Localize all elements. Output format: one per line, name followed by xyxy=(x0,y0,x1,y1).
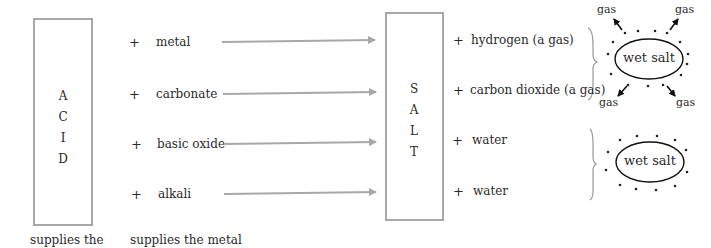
salt-letters: S A L T xyxy=(404,79,424,163)
product-hydrogen: hydrogen (a gas) xyxy=(471,33,574,47)
gas-label: gas xyxy=(599,96,618,109)
gas-label: gas xyxy=(675,3,694,16)
wet-salt-label: wet salt xyxy=(615,153,685,168)
gas-label: gas xyxy=(676,96,695,109)
wet-salt-label: wet salt xyxy=(614,50,684,65)
reaction-arrows xyxy=(222,40,376,194)
reactant-caption: supplies the metal xyxy=(130,233,242,247)
plus-sign: + xyxy=(453,184,464,199)
salt-letter: T xyxy=(404,142,424,163)
plus-sign: + xyxy=(453,83,464,98)
acid-caption: supplies the xyxy=(30,233,104,247)
plus-sign: + xyxy=(452,133,463,148)
salt-letter: S xyxy=(404,79,424,100)
product-water: water xyxy=(473,184,508,198)
salt-letter: L xyxy=(404,121,424,142)
product-carbon-dioxide: carbon dioxide (a gas) xyxy=(470,83,605,97)
product-water: water xyxy=(472,133,507,147)
diagram-graphics xyxy=(0,0,711,248)
salt-letter: A xyxy=(404,100,424,121)
gas-label: gas xyxy=(597,3,616,16)
plus-sign: + xyxy=(453,33,464,48)
